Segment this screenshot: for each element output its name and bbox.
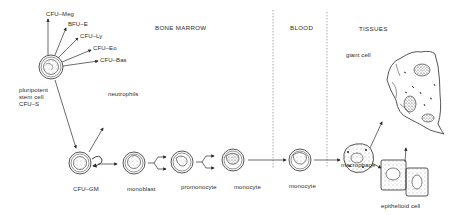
label-cfu-bas: CFU–Bas	[100, 57, 127, 64]
arrow-promonocyte-to-monocyte	[196, 156, 214, 168]
label-monocyte-marrow: monocyte	[234, 184, 261, 191]
arrow-monoblast-to-promonocyte	[148, 157, 166, 169]
diagram-drawing	[0, 0, 449, 215]
region-label-bone-marrow: BONE MARROW	[155, 24, 206, 31]
arrow-epithelioid-to-giant-cell	[405, 148, 406, 162]
label-monoblast: monoblast	[127, 186, 156, 193]
label-macrophage: macrophage	[341, 162, 375, 169]
monocyte-marrow-cell-icon	[222, 149, 244, 171]
neutrophils-arrow	[89, 128, 103, 152]
label-cfu-meg: CFU–Meg	[46, 11, 74, 18]
promonocyte-cell-icon	[171, 151, 193, 173]
stem-cell-icon	[39, 55, 63, 79]
monocyte-blood-cell-icon	[289, 149, 311, 171]
hematopoiesis-diagram: BONE MARROW BLOOD TISSUES CFU–Meg BFU–E …	[0, 0, 449, 215]
epithelioid-cell-icon	[381, 160, 428, 196]
cfu-gm-cell-icon	[69, 152, 91, 174]
stem-cell-label-line-1: pluripotent	[19, 87, 48, 94]
label-cfu-eo: CFU–Eo	[93, 45, 117, 52]
region-label-tissues: TISSUES	[359, 25, 388, 32]
label-cfu-ly: CFU–Ly	[80, 33, 102, 40]
self-renewal-arrow	[92, 156, 102, 166]
stem-cell-label-line-3: CFU–S	[19, 101, 39, 108]
stem-cell-label-line-2: stem cell	[19, 94, 44, 101]
label-neutrophils: neutrophils	[108, 91, 138, 98]
monoblast-cell-icon	[123, 152, 145, 174]
label-giant-cell: giant cell	[346, 52, 371, 59]
giant-cell-icon	[387, 51, 444, 134]
label-bfu-e: BFU–E	[68, 21, 88, 28]
arrow-macrophage-to-giant-cell	[370, 122, 382, 148]
label-cfu-gm: CFU–GM	[73, 186, 99, 193]
label-epithelioid-cell: epithelioid cell	[381, 203, 420, 210]
label-monocyte-blood: monocyte	[289, 183, 316, 190]
region-label-blood: BLOOD	[290, 24, 313, 31]
label-promonocyte: promonocyte	[181, 184, 217, 191]
